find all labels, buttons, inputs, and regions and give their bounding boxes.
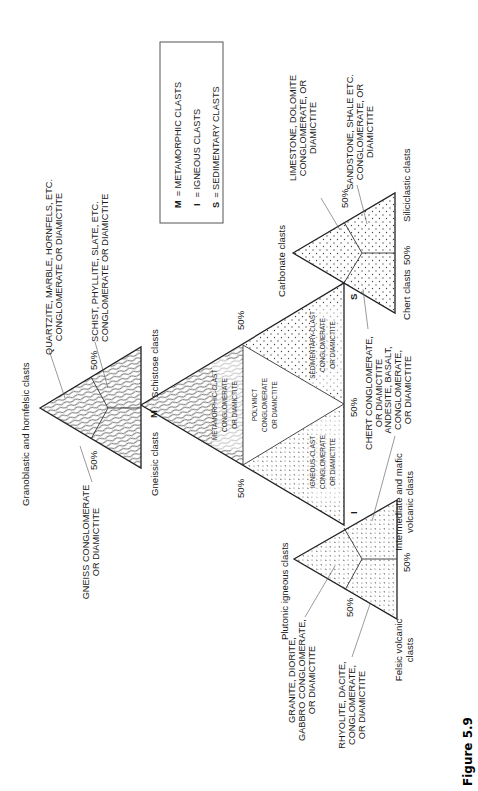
callout-line: OR DIAMICTITE — [357, 671, 367, 739]
field-line: SEDIMENTARY-CLAST — [309, 311, 316, 379]
granite-callout: GRANITE, DIORITE, GABBRO CONGLOMERATE, O… — [287, 619, 317, 741]
rock-classification-diagram: M= METAMORPHIC CLASTS I= IGNEOUS CLASTS … — [0, 0, 478, 791]
intermediate-mafic-label: Intermediate and mafic volcanic clasts — [393, 453, 415, 551]
callout-line: CONGLOMERATE, OR — [298, 79, 308, 176]
legend-label-i: = IGNEOUS CLASTS — [192, 109, 202, 198]
field-line: OR DIAMICTITE — [329, 438, 336, 486]
callout-line: DIAMICTITE — [365, 106, 375, 158]
figure-caption: Figure 5.9 — [461, 717, 475, 786]
legend: M= METAMORPHIC CLASTS I= IGNEOUS CLASTS … — [160, 42, 223, 223]
metamorphic-percent-top: 50% — [88, 350, 99, 370]
label-line: Felsic volcanic — [393, 619, 404, 682]
legend-label-s: = SEDIMENTARY CLASTS — [211, 86, 221, 198]
vertex-i-label: I — [348, 511, 359, 514]
schist-callout: SCHIST, PHYLLITE, SLATE, ETC. CONGLOMERA… — [90, 194, 110, 342]
carbonate-clasts-label: Carbonate clasts — [276, 225, 287, 297]
svg-text:S= SEDIMENTARY CLASTS: S= SEDIMENTARY CLASTS — [211, 86, 221, 208]
callout-line: OR DIAMICTITE — [307, 646, 317, 714]
limestone-callout: LIMESTONE, DOLOMITE CONGLOMERATE, OR DIA… — [288, 75, 318, 181]
sedimentary-clast-field: SEDIMENTARY-CLAST CONGLOMERATE OR DIAMIC… — [309, 311, 336, 379]
legend-symbol-s: S — [211, 202, 221, 208]
svg-text:I= IGNEOUS CLASTS: I= IGNEOUS CLASTS — [192, 109, 202, 206]
felsic-volcanic-label: Felsic volcanic clasts — [393, 619, 415, 682]
callout-line: RHYOLITE, DACITE, — [337, 661, 347, 748]
callout-line: QUARTZITE, MARBLE, HORNFELS, ETC. — [44, 179, 54, 355]
central-percent-bottom: 50% — [235, 478, 246, 498]
callout-line: OR DIAMICTITE — [403, 356, 413, 424]
field-line: IGNEOUS-CLAST — [309, 436, 316, 488]
andesite-callout: ANDESITE, BASALT, CONGLOMERATE, OR DIAMI… — [383, 346, 413, 433]
label-line: volcanic clasts — [404, 471, 415, 533]
callout-line: CONGLOMERATE, — [393, 350, 403, 430]
igneous-clast-field: IGNEOUS-CLAST CONGLOMERATE OR DIAMICTITE — [309, 435, 336, 489]
schistose-clasts-label: Schistose clasts — [149, 329, 160, 398]
central-percent-right: 50% — [348, 397, 359, 417]
callout-line: CONGLOMERATE OR DIAMICTITE — [100, 194, 110, 342]
field-line: CONGLOMERATE — [319, 435, 326, 489]
gneissic-clasts-label: Gneissic clasts — [149, 432, 160, 496]
field-line: CONGLOMERATE — [261, 378, 268, 432]
label-line: Intermediate and mafic — [393, 453, 404, 551]
plutonic-clasts-label: Plutonic igneous clasts — [279, 542, 290, 640]
svg-text:M= METAMORPHIC CLASTS: M= METAMORPHIC CLASTS — [173, 82, 183, 208]
callout-line: CHERT CONGLOMERATE, — [364, 336, 374, 450]
callout-line: DIAMICTITE — [308, 102, 318, 154]
callout-line: GRANITE, DIORITE, — [287, 637, 297, 723]
field-line: METAMORPHIC-CLAST — [211, 370, 218, 440]
callout-line: ANDESITE, BASALT, — [383, 346, 393, 433]
callout-line: SCHIST, PHYLLITE, SLATE, ETC. — [90, 201, 100, 342]
field-line: CONGLOMERATE — [319, 318, 326, 372]
central-percent-top: 50% — [235, 310, 246, 330]
callout-line: CONGLOMERATE, OR — [355, 83, 365, 180]
igneous-percent-top: 50% — [344, 597, 355, 617]
legend-symbol-i: I — [192, 203, 202, 206]
callout-line: CONGLOMERATE OR DIAMICTITE — [54, 193, 64, 341]
chert-callout: CHERT CONGLOMERATE, OR DIAMICTITE — [364, 336, 384, 450]
igneous-percent-bottom: 50% — [401, 552, 412, 572]
sedimentary-percent-top: 50% — [339, 188, 350, 208]
metamorphic-percent-bottom: 50% — [88, 450, 99, 470]
callout-line: OR DIAMICTITE — [91, 508, 101, 576]
callout-line: SANDSTONE, SHALE ETC. — [345, 74, 355, 190]
chert-clasts-label: Chert clasts — [401, 269, 412, 320]
field-line: POLYMICT — [251, 389, 258, 421]
vertex-s-label: S — [348, 293, 359, 300]
legend-label-m: = METAMORPHIC CLASTS — [173, 82, 183, 196]
sandstone-callout: SANDSTONE, SHALE ETC. CONGLOMERATE, OR D… — [345, 74, 375, 190]
field-line: OR DIAMICTITE — [271, 381, 278, 429]
vertex-m-label: M — [148, 410, 159, 418]
field-line: CONGLOMERATE — [221, 378, 228, 432]
label-line: clasts — [404, 638, 415, 663]
rhyolite-callout: RHYOLITE, DACITE, CONGLOMERATE, OR DIAMI… — [337, 661, 367, 748]
callout-line: GNEISS CONGLOMERATE — [81, 485, 91, 600]
callout-line: LIMESTONE, DOLOMITE — [288, 75, 298, 181]
sedimentary-percent-bottom: 50% — [401, 245, 412, 265]
siliciclastic-clasts-label: Siliciclastic clasts — [401, 148, 412, 222]
legend-symbol-m: M — [173, 200, 183, 208]
callout-line: CONGLOMERATE, — [347, 665, 357, 745]
gneiss-callout: GNEISS CONGLOMERATE OR DIAMICTITE — [81, 485, 101, 600]
field-line: OR DIAMICTITE — [231, 381, 238, 429]
granoblastic-clasts-label: Granoblastic and hornfelsic clasts — [20, 362, 31, 506]
quartzite-callout: QUARTZITE, MARBLE, HORNFELS, ETC. CONGLO… — [44, 179, 64, 355]
callout-line: GABBRO CONGLOMERATE, — [297, 619, 307, 741]
field-line: OR DIAMICTITE — [329, 321, 336, 369]
